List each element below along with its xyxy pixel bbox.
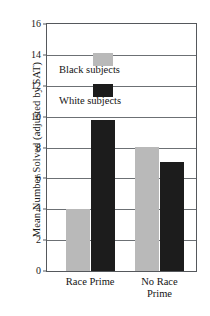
gridline [47,86,196,87]
bar-chart: Mean Number Solved (adjusted by SAT) 024… [0,0,210,316]
plot-area: 0246810121416 [46,23,197,272]
y-axis-tick-label: 0 [36,266,47,276]
bar-1-2 [91,120,115,271]
bar-2-1 [135,147,159,271]
plot-inner: 0246810121416 [47,24,196,271]
gridline [47,117,196,118]
x-axis-tick-label-line: No Race [114,276,204,288]
y-axis-tick-label: 4 [36,204,47,214]
x-axis-tick-label-2: No RacePrime [114,276,204,300]
bar-1-1 [66,209,90,271]
y-axis-tick-label: 16 [31,19,47,29]
x-axis-tick-label-line: Prime [114,288,204,300]
gridline [47,55,196,56]
y-axis-tick-label: 14 [31,50,47,60]
bar-2-2 [160,162,184,271]
y-axis-tick-label: 8 [36,143,47,153]
y-axis-tick-label: 2 [36,235,47,245]
y-axis-tick-label: 10 [31,112,47,122]
gridline [47,148,196,149]
y-axis-tick-label: 6 [36,173,47,183]
y-axis-tick-label: 12 [31,81,47,91]
